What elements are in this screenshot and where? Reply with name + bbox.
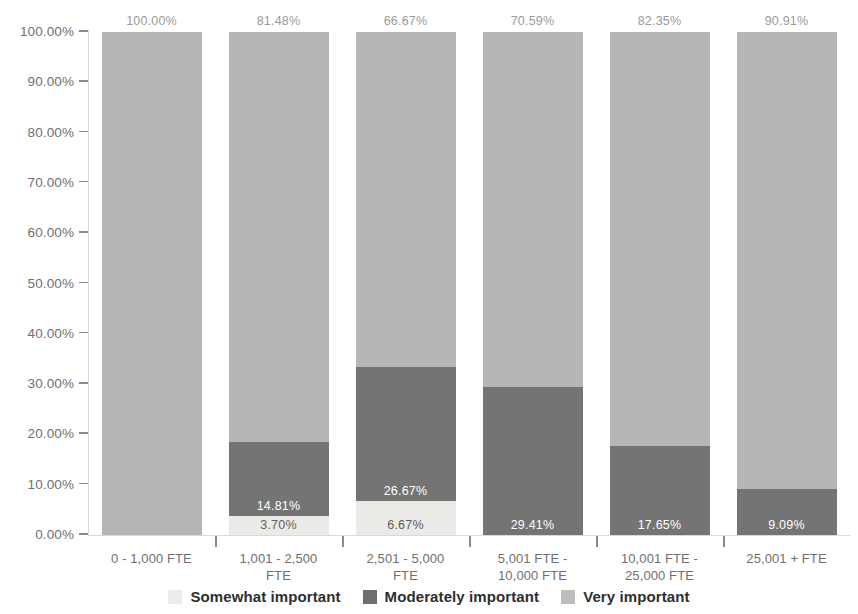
bar-segment-value-label: 6.67%	[356, 518, 456, 532]
bar-segment-value-label: 70.59%	[483, 14, 583, 28]
bar-segment[interactable]: 3.70%	[229, 516, 329, 535]
y-axis-tick: 10.00%	[0, 477, 88, 491]
bar-segment[interactable]: 9.09%	[737, 489, 837, 535]
y-axis-tick: 20.00%	[0, 426, 88, 440]
bar-segment-value-label: 66.67%	[356, 14, 456, 28]
bar-stack: 3.70%14.81%81.48%	[229, 32, 329, 535]
chart-legend: Somewhat importantModerately importantVe…	[0, 588, 858, 605]
y-axis-tick: 60.00%	[0, 225, 88, 239]
bar-group[interactable]: 100.00%	[88, 32, 215, 535]
y-axis-tick: 70.00%	[0, 175, 88, 189]
bar-stack: 100.00%	[102, 32, 202, 535]
bar-segment[interactable]: 17.65%	[610, 446, 710, 535]
bar-segment-value-label: 29.41%	[483, 518, 583, 532]
bar-segment-value-label: 81.48%	[229, 14, 329, 28]
y-axis-tick-labels: 100.00%90.00%80.00%70.00%60.00%50.00%40.…	[0, 32, 88, 534]
y-axis-tick: 80.00%	[0, 125, 88, 139]
y-axis-tick-label: 10.00%	[28, 477, 74, 492]
bar-segment-value-label: 82.35%	[610, 14, 710, 28]
y-axis-tick-label: 0.00%	[35, 527, 74, 542]
y-axis-tick-label: 40.00%	[28, 326, 74, 341]
x-axis-category-label: 0 - 1,000 FTE	[88, 550, 215, 567]
x-axis-category-label: 1,001 - 2,500FTE	[215, 550, 342, 584]
y-axis-tick-mark	[79, 483, 88, 485]
bar-segment[interactable]	[102, 32, 202, 535]
legend-label: Somewhat important	[190, 588, 340, 605]
x-axis-category-label-line2: 25,000 FTE	[596, 567, 723, 584]
y-axis-tick: 90.00%	[0, 74, 88, 88]
y-axis-tick-label: 60.00%	[28, 225, 74, 240]
y-axis-tick-label: 90.00%	[28, 74, 74, 89]
bar-segment[interactable]: 26.67%	[356, 367, 456, 501]
x-axis-category-label: 10,001 FTE -25,000 FTE	[596, 550, 723, 584]
bar-segment[interactable]: 14.81%	[229, 442, 329, 516]
bar-segment-value-label: 17.65%	[610, 518, 710, 532]
y-axis-tick-mark	[79, 30, 88, 32]
y-axis-tick-label: 70.00%	[28, 175, 74, 190]
x-axis-tick-mark	[723, 536, 725, 547]
bar-segment[interactable]	[737, 32, 837, 489]
bar-segment-value-label: 9.09%	[737, 518, 837, 532]
bar-stack: 6.67%26.67%66.67%	[356, 32, 456, 535]
bar-stack: 29.41%70.59%	[483, 32, 583, 535]
y-axis-tick-mark	[79, 131, 88, 133]
y-axis-tick-mark	[79, 432, 88, 434]
bar-segment[interactable]: 6.67%	[356, 501, 456, 535]
y-axis-tick: 30.00%	[0, 376, 88, 390]
bar-segment[interactable]	[229, 32, 329, 442]
bar-segment-value-label: 26.67%	[356, 484, 456, 498]
legend-item[interactable]: Very important	[561, 588, 689, 605]
y-axis-tick-label: 50.00%	[28, 276, 74, 291]
legend-item[interactable]: Moderately important	[363, 588, 540, 605]
bar-group[interactable]: 29.41%70.59%	[469, 32, 596, 535]
x-axis-tick-mark	[215, 536, 217, 547]
x-axis-tick-mark	[469, 536, 471, 547]
x-axis-category-label-line1: 5,001 FTE -	[469, 550, 596, 567]
x-axis-category-label-line2: FTE	[215, 567, 342, 584]
legend-color-swatch	[168, 590, 182, 604]
bar-segment-value-label: 3.70%	[229, 518, 329, 532]
y-axis-tick-mark	[79, 332, 88, 334]
bar-stack: 17.65%82.35%	[610, 32, 710, 535]
y-axis-tick-label: 100.00%	[20, 24, 74, 39]
x-axis-category-label: 25,001 + FTE	[723, 550, 850, 567]
bar-segment[interactable]	[356, 32, 456, 367]
x-axis-category-label-line2: 10,000 FTE	[469, 567, 596, 584]
y-axis-tick-mark	[79, 282, 88, 284]
y-axis-tick: 50.00%	[0, 276, 88, 290]
y-axis-tick-label: 30.00%	[28, 376, 74, 391]
bar-group[interactable]: 17.65%82.35%	[596, 32, 723, 535]
legend-color-swatch	[561, 590, 575, 604]
legend-item[interactable]: Somewhat important	[168, 588, 340, 605]
y-axis-tick: 40.00%	[0, 326, 88, 340]
y-axis-tick: 0.00%	[0, 527, 88, 541]
legend-label: Very important	[583, 588, 689, 605]
x-axis-category-label-line1: 0 - 1,000 FTE	[88, 550, 215, 567]
bar-segment-value-label: 100.00%	[102, 14, 202, 28]
x-axis-category-label-line1: 2,501 - 5,000	[342, 550, 469, 567]
x-axis-tick-mark	[596, 536, 598, 547]
bar-segment[interactable]: 29.41%	[483, 387, 583, 535]
y-axis-tick-mark	[79, 181, 88, 183]
x-axis-category-label-line1: 10,001 FTE -	[596, 550, 723, 567]
legend-label: Moderately important	[385, 588, 540, 605]
bar-group[interactable]: 3.70%14.81%81.48%	[215, 32, 342, 535]
x-axis-category-label-line1: 1,001 - 2,500	[215, 550, 342, 567]
x-axis-category-label-line2: FTE	[342, 567, 469, 584]
bar-series-container: 100.00%3.70%14.81%81.48%6.67%26.67%66.67…	[88, 32, 850, 535]
bar-segment[interactable]	[610, 32, 710, 446]
x-axis-category-label: 5,001 FTE -10,000 FTE	[469, 550, 596, 584]
x-axis-tick-mark	[342, 536, 344, 547]
y-axis-tick-mark	[79, 382, 88, 384]
x-axis-category-label-line1: 25,001 + FTE	[723, 550, 850, 567]
y-axis-tick-mark	[79, 533, 88, 535]
bar-group[interactable]: 6.67%26.67%66.67%	[342, 32, 469, 535]
bar-group[interactable]: 9.09%90.91%	[723, 32, 850, 535]
stacked-bar-chart: 100.00%90.00%80.00%70.00%60.00%50.00%40.…	[0, 0, 858, 614]
bar-segment[interactable]	[483, 32, 583, 387]
y-axis-tick-mark	[79, 231, 88, 233]
y-axis-tick: 100.00%	[0, 24, 88, 38]
y-axis-tick-label: 80.00%	[28, 125, 74, 140]
bar-segment-value-label: 14.81%	[229, 499, 329, 513]
bar-stack: 9.09%90.91%	[737, 32, 837, 535]
